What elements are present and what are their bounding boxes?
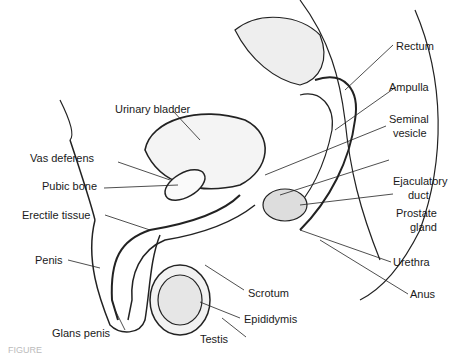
label-urethra: Urethra [393,256,430,269]
label-ampulla: Ampulla [389,81,429,94]
label-anus: Anus [410,288,435,301]
label-seminal-vesicle-2: vesicle [393,127,427,140]
label-seminal-vesicle-1: Seminal [389,113,429,126]
label-testis: Testis [200,333,228,346]
label-urinary-bladder: Urinary bladder [115,103,190,116]
label-prostate-gland-2: gland [410,221,437,234]
figure-caption-fragment: FIGURE [8,344,42,354]
label-scrotum: Scrotum [248,287,289,300]
label-ejaculatory-duct-2: duct [408,189,429,202]
label-erectile-tissue: Erectile tissue [22,209,90,222]
label-prostate-gland-1: Prostate [396,207,437,220]
label-epididymis: Epididymis [244,313,297,326]
label-rectum: Rectum [396,40,434,53]
label-vas-deferens: Vas deferens [30,152,94,165]
label-ejaculatory-duct-1: Ejaculatory [393,175,447,188]
label-penis: Penis [35,254,63,267]
label-glans-penis: Glans penis [52,327,110,340]
label-pubic-bone: Pubic bone [42,180,97,193]
